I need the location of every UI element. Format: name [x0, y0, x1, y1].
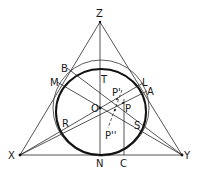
point-p1	[116, 98, 118, 100]
point-z	[99, 21, 101, 23]
label-a: A	[147, 86, 154, 97]
label-p1: P'	[112, 87, 121, 98]
label-b: B	[61, 63, 68, 74]
label-o: O	[91, 103, 99, 114]
point-p	[122, 102, 124, 104]
label-y: Y	[183, 150, 191, 161]
label-p: P	[125, 103, 131, 114]
label-s: S	[134, 120, 140, 131]
point-x	[19, 154, 22, 157]
label-n: N	[96, 158, 103, 169]
geometry-diagram: Z X Y T B M L A O P' P R S P'' N C	[0, 0, 197, 175]
line-x-o-l	[20, 83, 143, 155]
label-t: T	[100, 74, 108, 85]
label-x: X	[8, 150, 15, 161]
point-p2	[114, 109, 116, 111]
label-z: Z	[96, 8, 103, 19]
label-p2: P''	[105, 130, 117, 141]
label-c: C	[120, 158, 127, 169]
label-m: M	[50, 77, 59, 88]
point-y	[181, 154, 184, 157]
point-o	[99, 107, 102, 110]
label-r: R	[62, 118, 69, 129]
